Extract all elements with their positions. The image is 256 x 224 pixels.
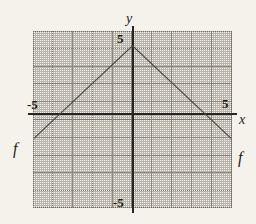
y-axis-tick-label-5: 5 [117,32,124,45]
function-curve [33,31,232,208]
function-label-right: f [238,150,242,166]
x-axis-name-label: x [239,113,245,127]
x-axis-tick-label-5: 5 [222,97,229,110]
y-axis-name-label: y [126,12,132,26]
function-label-left: f [13,141,17,157]
graph-screenshot: 5 -5 -5 5 y x f f [0,0,256,224]
function-polyline [34,46,231,139]
y-axis-tick-label-minus-5: -5 [113,196,124,209]
plot-area [33,31,232,208]
x-axis-tick-label-minus-5: -5 [27,98,38,111]
